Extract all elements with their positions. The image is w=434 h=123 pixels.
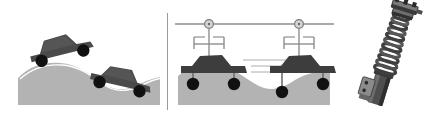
car-3-body bbox=[181, 55, 247, 73]
top-mount-side-tab bbox=[416, 9, 423, 15]
car-4-wheel-front bbox=[317, 78, 329, 90]
roller-hub bbox=[208, 23, 210, 25]
car-3-wheel-rear bbox=[187, 78, 199, 90]
coil-over-strut-graphic bbox=[340, 0, 434, 123]
car-3-wheel-front bbox=[228, 78, 240, 90]
active-suspension-graphic bbox=[167, 0, 340, 123]
passive-suspension-panel bbox=[0, 0, 167, 123]
car-4-body bbox=[270, 55, 336, 73]
active-suspension-panel bbox=[167, 0, 340, 123]
roller-hub bbox=[298, 23, 300, 25]
strut-photo-panel bbox=[340, 0, 434, 123]
coil-over-strut bbox=[356, 0, 425, 110]
suspension-comparison-figure: Passive suspension: car bodies tilt and … bbox=[0, 0, 434, 123]
passive-suspension-graphic bbox=[0, 0, 167, 123]
car-4-wheel-rear bbox=[276, 86, 288, 98]
coil-spring bbox=[374, 11, 413, 76]
